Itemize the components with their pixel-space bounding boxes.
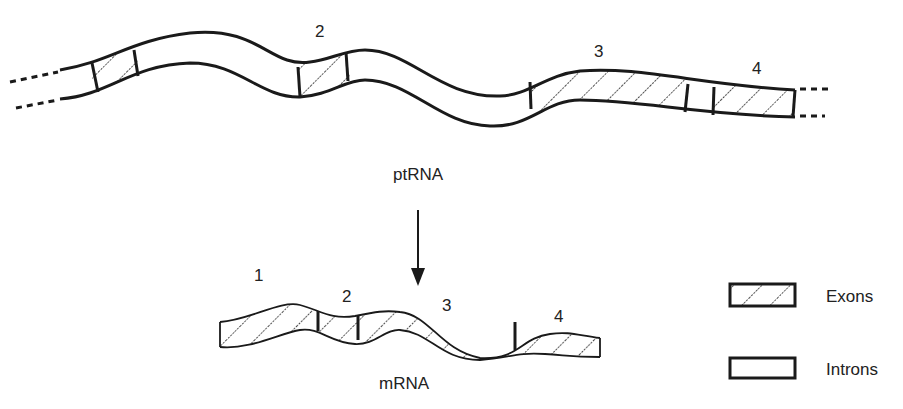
legend: Exons Introns: [730, 284, 878, 379]
mrna-exon-label-2: 2: [342, 287, 351, 306]
ptrna-exon-1: [92, 20, 138, 120]
ptrna-exon-4: [714, 20, 793, 140]
mrna-exon-label-4: 4: [554, 307, 563, 326]
legend-item-exons: Exons: [730, 284, 873, 306]
ptrna-label: ptRNA: [393, 165, 444, 184]
mrna-label: mRNA: [379, 374, 430, 393]
exon-swatch-icon: [730, 284, 795, 306]
ptrna-exon-3: [530, 20, 687, 140]
legend-label-introns: Introns: [826, 360, 878, 379]
mrna-strand: 1 2 3 4 mRNA: [210, 266, 610, 393]
ptrna-exon-label-3: 3: [594, 42, 603, 61]
legend-item-introns: Introns: [730, 358, 878, 379]
ptrna-strand: 2 3 4 ptRNA: [10, 20, 830, 184]
mrna-exon-label-1: 1: [254, 266, 263, 285]
intron-swatch-icon: [730, 358, 795, 378]
processing-arrow: [411, 210, 425, 286]
ptrna-left-continuation: [10, 72, 58, 82]
mrna-exon-label-3: 3: [442, 296, 451, 315]
ptrna-exon-label-2: 2: [315, 22, 324, 41]
legend-label-exons: Exons: [826, 287, 873, 306]
arrow-down-icon: [411, 268, 425, 286]
splicing-diagram: 2 3 4 ptRNA 1 2 3 4 mRNA Exons Int: [0, 0, 903, 409]
ptrna-exon-label-4: 4: [752, 59, 761, 78]
